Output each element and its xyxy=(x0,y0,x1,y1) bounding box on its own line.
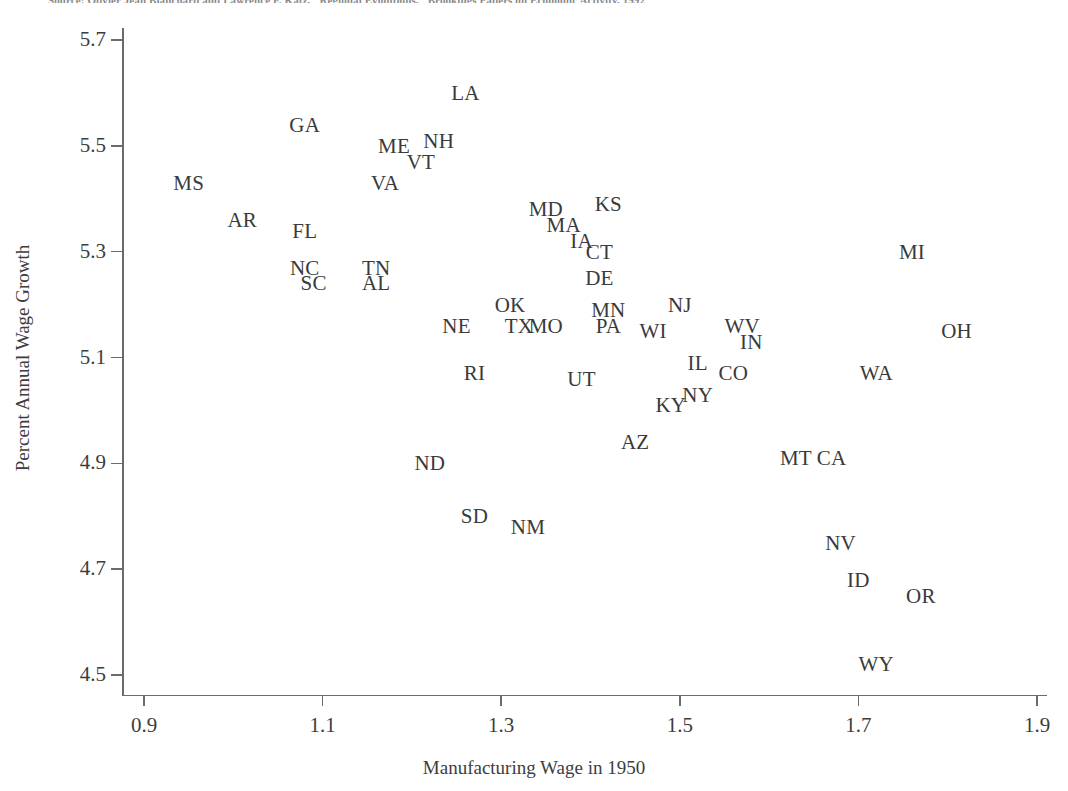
y-tick-label: 4.7 xyxy=(36,556,106,581)
data-point-label: NE xyxy=(442,315,470,336)
y-tick-label: 4.9 xyxy=(36,450,106,475)
data-point-label: FL xyxy=(292,220,317,241)
y-tick-mark xyxy=(111,357,122,359)
plot-area: 5.75.55.35.14.94.74.5 0.91.11.31.51.71.9… xyxy=(0,0,1068,791)
data-point-label: MO xyxy=(529,315,563,336)
x-tick-mark xyxy=(679,695,681,706)
x-axis-line xyxy=(122,695,1047,697)
x-tick-label: 1.9 xyxy=(1002,713,1068,738)
data-point-label: AZ xyxy=(621,432,649,453)
data-point-label: DE xyxy=(585,268,613,289)
y-tick-mark xyxy=(111,251,122,253)
data-point-label: SD xyxy=(461,506,488,527)
data-point-label: MS xyxy=(173,172,204,193)
data-point-label: OR xyxy=(906,585,936,606)
x-tick-mark xyxy=(143,695,145,706)
data-point-label: NJ xyxy=(668,294,692,315)
y-tick-mark xyxy=(111,674,122,676)
data-point-label: NM xyxy=(511,516,545,537)
x-tick-label: 1.1 xyxy=(288,713,358,738)
y-tick-label: 5.5 xyxy=(36,133,106,158)
y-axis-title: Percent Annual Wage Growth xyxy=(12,198,34,518)
data-point-label: IN xyxy=(740,331,763,352)
y-tick-mark xyxy=(111,145,122,147)
data-point-label: MI xyxy=(899,241,925,262)
y-tick-label: 5.7 xyxy=(36,27,106,52)
data-point-label: SC xyxy=(301,273,327,294)
data-point-label: NH xyxy=(423,130,454,151)
data-point-label: CO xyxy=(719,363,749,384)
data-point-label: MT xyxy=(780,448,812,469)
x-axis-title: Manufacturing Wage in 1950 xyxy=(0,757,1068,779)
data-point-label: VA xyxy=(371,172,399,193)
data-point-label: PA xyxy=(596,315,621,336)
y-axis-line xyxy=(122,28,124,696)
data-point-label: UT xyxy=(567,368,595,389)
data-point-label: IL xyxy=(688,352,708,373)
data-point-label: GA xyxy=(289,114,320,135)
y-tick-mark xyxy=(111,568,122,570)
data-point-label: OK xyxy=(495,294,526,315)
data-point-label: ME xyxy=(378,135,410,156)
data-point-label: AL xyxy=(362,273,390,294)
y-tick-label: 5.1 xyxy=(36,345,106,370)
data-point-label: RI xyxy=(464,363,485,384)
data-point-label: ND xyxy=(414,453,445,474)
y-tick-label: 5.3 xyxy=(36,239,106,264)
data-point-label: CA xyxy=(817,448,847,469)
data-point-label: VT xyxy=(407,151,435,172)
data-point-label: NY xyxy=(682,384,713,405)
x-tick-label: 0.9 xyxy=(109,713,179,738)
data-point-label: WA xyxy=(860,363,893,384)
x-tick-label: 1.3 xyxy=(466,713,536,738)
data-point-label: CT xyxy=(586,241,613,262)
scatter-plot-figure: Source: Olivier Jean Blanchard and Lawre… xyxy=(0,0,1068,791)
data-point-label: LA xyxy=(451,82,479,103)
data-point-label: ID xyxy=(847,569,870,590)
x-tick-mark xyxy=(500,695,502,706)
y-tick-mark xyxy=(111,39,122,41)
data-point-label: KY xyxy=(655,395,686,416)
x-tick-mark xyxy=(1036,695,1038,706)
data-point-label: OH xyxy=(941,321,972,342)
x-tick-mark xyxy=(322,695,324,706)
x-tick-label: 1.5 xyxy=(645,713,715,738)
data-point-label: AR xyxy=(227,209,257,230)
y-tick-label: 4.5 xyxy=(36,662,106,687)
data-point-label: KS xyxy=(595,194,622,215)
data-point-label: WI xyxy=(639,321,666,342)
data-point-label: NV xyxy=(825,532,856,553)
y-tick-mark xyxy=(111,463,122,465)
data-point-label: WY xyxy=(859,654,894,675)
x-tick-label: 1.7 xyxy=(823,713,893,738)
x-tick-mark xyxy=(858,695,860,706)
